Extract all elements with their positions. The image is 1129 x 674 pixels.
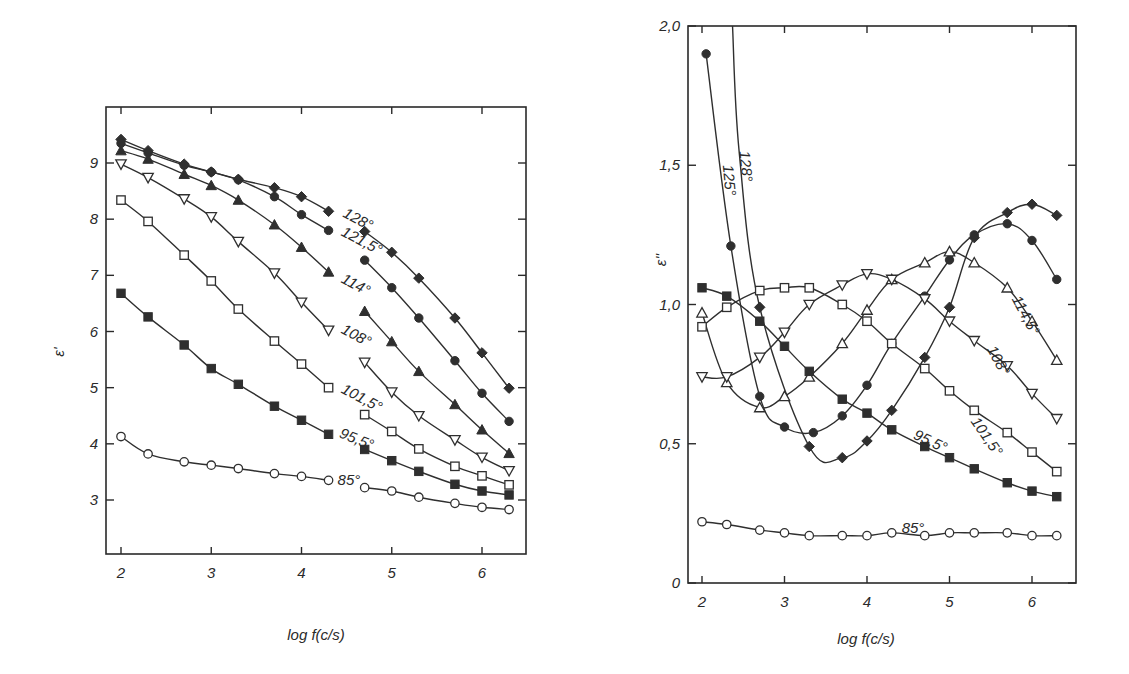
y-tick-label: 8 — [90, 210, 99, 227]
square-marker-icon — [324, 383, 332, 391]
series-1145-deg: 114,5° — [697, 246, 1062, 411]
triangle-up-marker-icon — [1052, 355, 1062, 364]
circle-marker-icon — [415, 314, 423, 322]
curve-line — [365, 311, 509, 453]
circle-marker-icon — [756, 392, 764, 400]
triangle-up-marker-icon — [944, 246, 954, 255]
curve-line — [706, 54, 1057, 434]
square-marker-icon — [1028, 448, 1036, 456]
circle-marker-icon — [388, 283, 396, 291]
square-marker-icon — [207, 364, 215, 372]
curve-line — [365, 488, 509, 510]
y-tick-label: 2,0 — [658, 17, 681, 34]
square-marker-icon — [1053, 467, 1061, 475]
square-marker-icon — [970, 465, 978, 473]
triangle-up-marker-icon — [269, 220, 279, 229]
circle-marker-icon — [117, 432, 125, 440]
circle-marker-icon — [207, 461, 215, 469]
curve-label: 85° — [902, 519, 925, 536]
circle-marker-icon — [270, 193, 278, 201]
circle-marker-icon — [180, 458, 188, 466]
circle-marker-icon — [838, 531, 846, 539]
square-marker-icon — [478, 487, 486, 495]
triangle-up-marker-icon — [779, 391, 789, 400]
square-marker-icon — [723, 292, 731, 300]
curve-label: 95,5° — [337, 424, 376, 453]
diamond-marker-icon — [920, 352, 930, 362]
x-tick-label: 4 — [297, 564, 305, 581]
circle-marker-icon — [388, 487, 396, 495]
circle-marker-icon — [451, 357, 459, 365]
y-tick-label: 3 — [90, 491, 99, 508]
circle-marker-icon — [970, 231, 978, 239]
square-marker-icon — [180, 251, 188, 259]
circle-marker-icon — [702, 50, 710, 58]
series-1015-deg: 101,5° — [698, 284, 1061, 476]
curve-label: 114,5° — [1009, 292, 1044, 337]
square-marker-icon — [780, 284, 788, 292]
square-marker-icon — [805, 367, 813, 375]
square-marker-icon — [838, 300, 846, 308]
diamond-marker-icon — [1052, 210, 1062, 220]
curve-label: 108° — [984, 342, 1014, 377]
circle-marker-icon — [270, 469, 278, 477]
triangle-up-marker-icon — [920, 258, 930, 267]
series-1015-deg: 101,5° — [117, 196, 513, 489]
square-marker-icon — [144, 217, 152, 225]
curve-line — [365, 260, 509, 421]
series-85-deg: 85° — [698, 518, 1061, 540]
x-tick-label: 6 — [478, 564, 487, 581]
circle-marker-icon — [360, 483, 368, 491]
diamond-marker-icon — [755, 302, 765, 312]
chart-left-real-permittivity: 234563456789log f(c/s)ε'128°121,5°114°10… — [50, 107, 526, 643]
x-tick-label: 6 — [1028, 593, 1037, 610]
triangle-down-marker-icon — [116, 160, 126, 169]
square-marker-icon — [945, 453, 953, 461]
y-axis-label: ε'' — [652, 253, 669, 266]
square-marker-icon — [838, 395, 846, 403]
circle-marker-icon — [888, 529, 896, 537]
x-tick-label: 3 — [780, 593, 789, 610]
circle-marker-icon — [780, 529, 788, 537]
circle-marker-icon — [324, 476, 332, 484]
circle-marker-icon — [144, 450, 152, 458]
square-marker-icon — [945, 387, 953, 395]
circle-marker-icon — [451, 499, 459, 507]
square-marker-icon — [756, 286, 764, 294]
diamond-marker-icon — [944, 302, 954, 312]
square-marker-icon — [270, 402, 278, 410]
square-marker-icon — [234, 380, 242, 388]
square-marker-icon — [888, 426, 896, 434]
circle-marker-icon — [1003, 220, 1011, 228]
series-114-deg: 114° — [116, 145, 514, 457]
diamond-marker-icon — [323, 206, 333, 216]
chart-right-loss-factor: 2345600,51,01,52,0log f(c/s)ε''128°125°1… — [652, 17, 1076, 647]
triangle-up-marker-icon — [206, 180, 216, 189]
circle-marker-icon — [838, 412, 846, 420]
square-marker-icon — [117, 289, 125, 297]
y-tick-label: 1,0 — [659, 296, 681, 313]
circle-marker-icon — [297, 472, 305, 480]
y-tick-label: 0 — [672, 574, 681, 591]
circle-marker-icon — [727, 242, 735, 250]
circle-marker-icon — [1028, 531, 1036, 539]
square-marker-icon — [297, 360, 305, 368]
circle-marker-icon — [1003, 529, 1011, 537]
curve-line — [121, 164, 329, 330]
curve-label: 101,5° — [968, 413, 1007, 458]
curve-line — [365, 362, 509, 470]
circle-marker-icon — [945, 256, 953, 264]
y-tick-label: 0,5 — [659, 435, 681, 452]
y-tick-label: 6 — [90, 323, 99, 340]
x-tick-label: 3 — [207, 564, 216, 581]
triangle-down-marker-icon — [755, 353, 765, 362]
square-marker-icon — [970, 406, 978, 414]
x-axis-label: log f(c/s) — [287, 626, 345, 643]
square-marker-icon — [698, 323, 706, 331]
square-marker-icon — [888, 339, 896, 347]
square-marker-icon — [723, 303, 731, 311]
circle-marker-icon — [970, 529, 978, 537]
circle-marker-icon — [505, 417, 513, 425]
circle-marker-icon — [805, 531, 813, 539]
triangle-down-marker-icon — [1052, 414, 1062, 423]
